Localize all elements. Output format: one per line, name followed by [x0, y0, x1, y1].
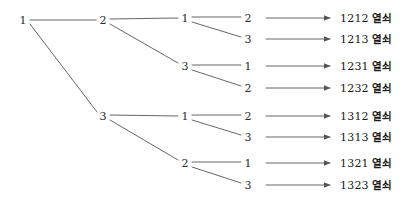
- edge-2-3: [110, 24, 178, 63]
- node-level3-1: 3: [182, 61, 189, 72]
- outcome-word-6: 열쇠: [372, 157, 392, 169]
- node-level2-1: 3: [100, 111, 107, 122]
- outcome-label-0: 1212열쇠: [340, 13, 392, 24]
- edge-3-1: [110, 115, 178, 116]
- node-leaf-6: 1: [245, 158, 252, 169]
- outcome-code-2: 1231: [340, 60, 369, 73]
- edge-l3a-3: [192, 22, 241, 37]
- outcome-code-0: 1212: [340, 12, 369, 25]
- node-level3-0: 1: [182, 13, 189, 24]
- node-leaf-4: 2: [245, 111, 252, 122]
- edge-l3d-3: [192, 167, 241, 183]
- outcome-code-4: 1312: [340, 110, 369, 123]
- outcome-label-1: 1213열쇠: [340, 34, 392, 45]
- outcome-code-7: 1323: [340, 179, 369, 192]
- node-level3-3: 2: [182, 158, 189, 169]
- node-leaf-3: 2: [245, 83, 252, 94]
- node-leaf-1: 3: [245, 34, 252, 45]
- tree-diagram: 1 2 3 1 3 1 2 2 3 1 2 2 3 1 3 1212열쇠 121…: [0, 0, 411, 200]
- node-leaf-0: 2: [245, 13, 252, 24]
- outcome-code-1: 1213: [340, 33, 369, 46]
- outcome-word-1: 열쇠: [372, 33, 392, 45]
- outcome-code-3: 1232: [340, 82, 369, 95]
- outcome-label-5: 1313열쇠: [340, 132, 392, 143]
- edge-2-1: [110, 18, 178, 19]
- outcome-word-3: 열쇠: [372, 82, 392, 94]
- node-leaf-7: 3: [245, 180, 252, 191]
- outcome-code-6: 1321: [340, 157, 369, 170]
- node-root: 1: [20, 15, 27, 26]
- node-leaf-5: 3: [245, 132, 252, 143]
- node-level3-2: 1: [182, 111, 189, 122]
- tree-edges: [0, 0, 411, 200]
- outcome-label-2: 1231열쇠: [340, 61, 392, 72]
- outcome-label-3: 1232열쇠: [340, 83, 392, 94]
- node-level2-0: 2: [100, 15, 107, 26]
- outcome-word-2: 열쇠: [372, 60, 392, 72]
- outcome-label-6: 1321열쇠: [340, 158, 392, 169]
- edge-l3b-2: [192, 70, 241, 86]
- outcome-label-4: 1312열쇠: [340, 111, 392, 122]
- edge-l3c-3: [192, 120, 241, 135]
- node-leaf-2: 1: [245, 61, 252, 72]
- edge-root-3: [30, 24, 97, 112]
- outcome-word-0: 열쇠: [372, 12, 392, 24]
- outcome-word-4: 열쇠: [372, 110, 392, 122]
- outcome-word-5: 열쇠: [372, 131, 392, 143]
- edge-3-2: [110, 120, 178, 160]
- outcome-label-7: 1323열쇠: [340, 180, 392, 191]
- outcome-code-5: 1313: [340, 131, 369, 144]
- outcome-word-7: 열쇠: [372, 179, 392, 191]
